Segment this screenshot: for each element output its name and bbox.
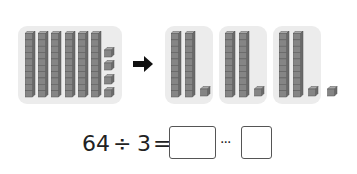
tens-rod (78, 31, 89, 99)
tens-rod (171, 31, 182, 99)
unit-cube (104, 87, 115, 98)
tens-rod (38, 31, 49, 99)
divisor: 3 (137, 131, 151, 157)
division-equation: 64 ÷ 3 = ··· (0, 122, 357, 162)
arrow-right-icon (133, 56, 153, 72)
tens-rod (239, 31, 250, 99)
tens-rod (279, 31, 290, 99)
division-operator: ÷ (113, 131, 131, 157)
remainder-unit-cube (327, 86, 338, 97)
tens-rod (225, 31, 236, 99)
remainder-answer-box[interactable] (241, 126, 272, 159)
dividend: 64 (82, 131, 110, 157)
tens-rod (51, 31, 62, 99)
tens-rod (65, 31, 76, 99)
unit-cube (200, 86, 211, 97)
tens-rod (91, 31, 102, 99)
remainder-separator: ··· (220, 134, 230, 150)
tens-rod (293, 31, 304, 99)
unit-cube (308, 86, 319, 97)
unit-cube (254, 86, 265, 97)
tens-rod (185, 31, 196, 99)
unit-cube (104, 60, 115, 71)
quotient-answer-box[interactable] (169, 126, 216, 159)
unit-cube (104, 74, 115, 85)
tens-rod (25, 31, 36, 99)
unit-cube (104, 47, 115, 58)
